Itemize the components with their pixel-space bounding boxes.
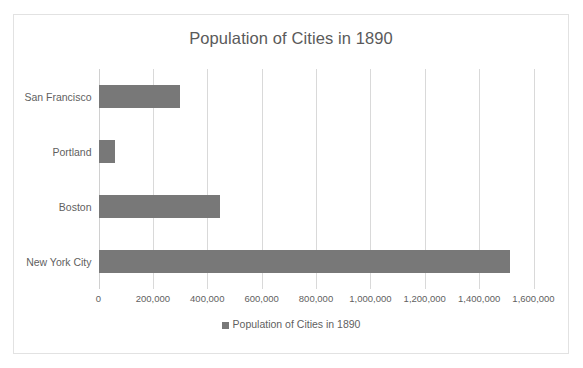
x-tick-label: 1,200,000 bbox=[404, 294, 446, 304]
chart-legend: Population of Cities in 1890 bbox=[14, 318, 568, 330]
x-tick-label: 800,000 bbox=[299, 294, 333, 304]
category-label: San Francisco bbox=[24, 91, 91, 102]
bar-row: New York City bbox=[99, 250, 511, 273]
category-label: New York City bbox=[26, 256, 91, 267]
chart-container: Population of Cities in 1890 San Francis… bbox=[13, 14, 569, 354]
x-tick-label: 1,600,000 bbox=[512, 294, 554, 304]
legend-label: Population of Cities in 1890 bbox=[233, 318, 361, 330]
x-tick-label: 600,000 bbox=[244, 294, 278, 304]
chart-title: Population of Cities in 1890 bbox=[14, 29, 568, 48]
x-tick-label: 1,400,000 bbox=[458, 294, 500, 304]
gridline bbox=[534, 69, 535, 289]
bar-row: Portland bbox=[99, 140, 116, 163]
x-tick-label: 0 bbox=[96, 294, 101, 304]
x-tick-label: 400,000 bbox=[190, 294, 224, 304]
legend-swatch-icon bbox=[222, 322, 229, 329]
bar-row: Boston bbox=[99, 195, 221, 218]
bar bbox=[99, 195, 221, 218]
bar-row: San Francisco bbox=[99, 85, 180, 108]
x-tick-label: 1,000,000 bbox=[349, 294, 391, 304]
bar bbox=[99, 85, 180, 108]
plot-area: San FranciscoPortlandBostonNew York City… bbox=[99, 69, 534, 289]
bar bbox=[99, 140, 116, 163]
x-tick-label: 200,000 bbox=[136, 294, 170, 304]
category-label: Portland bbox=[52, 146, 91, 157]
category-label: Boston bbox=[59, 201, 92, 212]
bar bbox=[99, 250, 511, 273]
